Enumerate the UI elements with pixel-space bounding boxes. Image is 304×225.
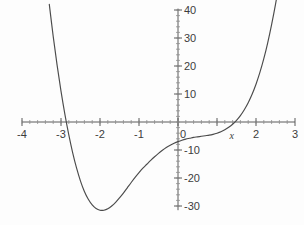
plot-figure: -4-3-2-102340302010-10-20-30 x <box>0 0 304 225</box>
quartic-curve <box>49 0 279 210</box>
y-tick-label: 40 <box>184 4 196 16</box>
y-tick-label: -20 <box>184 172 200 184</box>
x-tick-label: -1 <box>134 128 144 140</box>
y-tick-label: 10 <box>184 88 196 100</box>
y-tick-label: 20 <box>184 60 196 72</box>
x-tick-label: 2 <box>253 128 259 140</box>
x-tick-label: 0 <box>180 128 186 140</box>
x-tick-label: -3 <box>56 128 66 140</box>
y-tick-label: 30 <box>184 32 196 44</box>
tick-labels: -4-3-2-102340302010-10-20-30 <box>17 4 298 212</box>
data-curve <box>49 0 279 210</box>
y-tick-label: -30 <box>184 200 200 212</box>
x-tick-label: 3 <box>292 128 298 140</box>
x-axis-label: x <box>228 130 234 141</box>
axis-group <box>22 9 295 211</box>
x-tick-label: -2 <box>95 128 105 140</box>
tick-marks <box>22 10 295 206</box>
y-tick-label: -10 <box>184 144 200 156</box>
plot-canvas: -4-3-2-102340302010-10-20-30 x <box>0 0 304 225</box>
x-tick-label: -4 <box>17 128 27 140</box>
